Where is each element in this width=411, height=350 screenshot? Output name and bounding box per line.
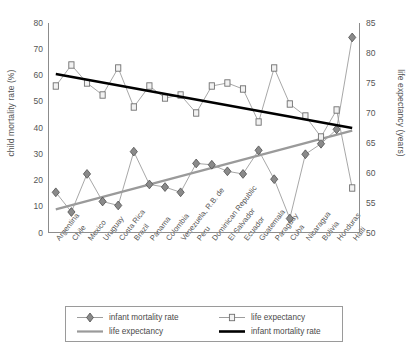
data-point-square [147, 83, 152, 89]
legend-label: infant mortality rate [251, 327, 321, 336]
legend-label: infant mortality rate [109, 313, 179, 322]
black-line-icon [218, 326, 246, 337]
data-point-diamond [302, 150, 309, 159]
data-point-square [318, 134, 323, 140]
data-point-diamond [115, 201, 122, 210]
data-point-diamond [349, 33, 356, 42]
data-point-square [272, 65, 277, 71]
legend-life-expectancy-trend[interactable]: life expectancy [76, 326, 163, 337]
data-point-diamond [224, 167, 231, 176]
data-point-diamond [130, 147, 137, 156]
data-point-square [209, 83, 214, 89]
legend-label: life expectancy [109, 327, 163, 336]
data-point-square [287, 101, 292, 107]
data-point-square [53, 83, 58, 89]
chart-root: child mortality rate (%) life expectancy… [0, 0, 411, 350]
trendline-infant-mortality-rate [56, 74, 352, 128]
gray-line-icon [76, 326, 104, 337]
data-point-square [69, 62, 74, 68]
data-point-diamond [271, 175, 278, 184]
series-line [56, 37, 352, 218]
legend-infant-mortality-markers[interactable]: infant mortality rate [76, 312, 179, 323]
diamond-line-icon [76, 312, 104, 323]
plot-area [48, 23, 360, 233]
series-infant-mortality-rate-diamond [52, 33, 356, 223]
data-point-square [240, 86, 245, 92]
data-point-diamond [193, 159, 200, 168]
data-point-square [100, 92, 105, 98]
square-line-icon [218, 312, 246, 323]
chart-canvas [48, 23, 360, 233]
data-point-square [256, 119, 261, 125]
data-point-square [116, 65, 121, 71]
legend-infant-mortality-trend[interactable]: infant mortality rate [218, 326, 321, 337]
data-point-diamond [83, 170, 90, 179]
data-point-square [131, 104, 136, 110]
data-point-diamond [146, 180, 153, 189]
legend-life-expectancy-markers[interactable]: life expectancy [218, 312, 305, 323]
data-point-diamond [177, 188, 184, 197]
data-point-square [162, 95, 167, 101]
data-point-square [350, 185, 355, 191]
data-point-diamond [161, 183, 168, 192]
data-point-square [225, 80, 230, 86]
data-point-diamond [286, 214, 293, 223]
legend-label: life expectancy [251, 313, 305, 322]
data-point-square [194, 110, 199, 116]
chart-legend: infant mortality ratelife expectancylife… [65, 306, 343, 342]
data-point-square [334, 107, 339, 113]
